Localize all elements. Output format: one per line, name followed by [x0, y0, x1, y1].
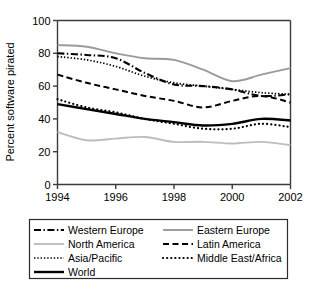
figure-container: 020406080100 19941996199820002002 Percen… [0, 0, 317, 296]
legend-label: World [68, 266, 95, 278]
legend-label: Middle East/Africa [197, 252, 282, 264]
y-tick-label: 80 [38, 47, 50, 59]
x-tick-label: 2002 [278, 191, 302, 203]
y-tick-label: 20 [38, 146, 50, 158]
legend-label: Western Europe [68, 224, 144, 236]
y-tick-label: 0 [44, 179, 50, 191]
x-tick-label: 2000 [220, 191, 244, 203]
legend-label: Asia/Pacific [68, 252, 122, 264]
x-tick-label: 1996 [104, 191, 128, 203]
x-tick-label: 1998 [162, 191, 186, 203]
software-piracy-line-chart: 020406080100 19941996199820002002 Percen… [0, 0, 317, 296]
x-tick-label: 1994 [45, 191, 69, 203]
legend-label: North America [68, 238, 135, 250]
y-tick-label: 40 [38, 113, 50, 125]
legend-label: Eastern Europe [197, 224, 270, 236]
y-tick-label: 60 [38, 80, 50, 92]
y-tick-label: 100 [32, 15, 50, 27]
y-axis-title: Percent software pirated [4, 42, 16, 161]
legend-label: Latin America [197, 238, 261, 250]
